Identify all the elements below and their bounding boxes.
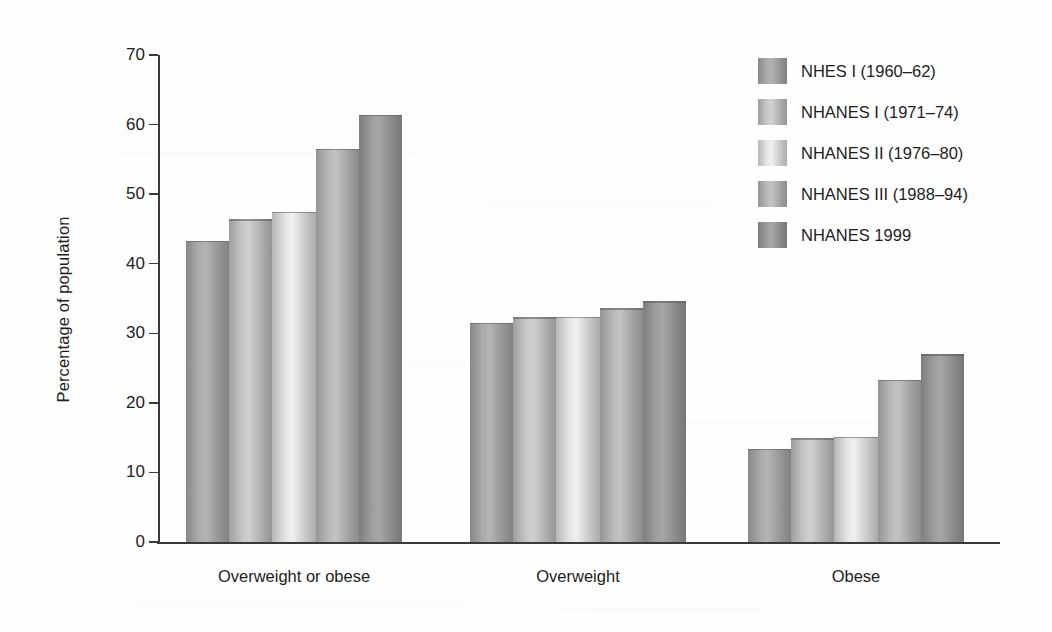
bar-cap <box>470 323 513 325</box>
y-axis-tick <box>149 124 158 125</box>
y-axis-tick <box>149 402 158 403</box>
legend-label: NHANES 1999 <box>801 227 911 244</box>
bar <box>643 301 686 542</box>
y-axis-tick-label: 30 <box>126 323 145 343</box>
bar-cap <box>748 449 791 451</box>
bar <box>921 354 964 542</box>
bar <box>229 219 272 542</box>
y-axis-tick <box>149 333 158 334</box>
y-axis-line <box>158 55 160 542</box>
bar-cap <box>834 437 877 439</box>
bar <box>556 317 599 542</box>
bar <box>186 241 229 542</box>
y-axis-title: Percentage of population <box>54 200 73 420</box>
y-axis-tick-label: 50 <box>126 184 145 204</box>
plot-area: 010203040506070 Overweight or obeseOverw… <box>158 55 1000 542</box>
y-axis-tick <box>149 54 158 55</box>
bar <box>791 438 834 542</box>
bar-cap <box>316 149 359 151</box>
bar <box>878 380 921 542</box>
legend-label: NHES I (1960–62) <box>801 63 936 80</box>
bar-cap <box>556 317 599 319</box>
category-label: Overweight or obese <box>218 567 370 586</box>
legend-label: NHANES III (1988–94) <box>801 186 968 203</box>
y-axis-tick <box>149 263 158 264</box>
legend-swatch <box>758 181 787 207</box>
y-axis-tick-label: 20 <box>126 393 145 413</box>
bar <box>272 212 315 542</box>
bar <box>316 149 359 542</box>
y-axis-tick-label: 0 <box>136 532 145 552</box>
bar <box>359 115 402 542</box>
bar-cap <box>229 219 272 221</box>
legend-item[interactable]: NHANES I (1971–74) <box>758 99 959 125</box>
legend-swatch <box>758 99 787 125</box>
category-label: Overweight <box>536 567 619 586</box>
bar <box>513 317 556 542</box>
bar-cap <box>921 354 964 356</box>
legend-item[interactable]: NHANES 1999 <box>758 222 911 248</box>
bar-cap <box>513 317 556 319</box>
bar-cap <box>878 380 921 382</box>
y-axis-tick <box>149 541 158 542</box>
bar-cap <box>791 438 834 440</box>
category-label: Obese <box>832 567 881 586</box>
bar <box>834 437 877 542</box>
y-axis-tick-label: 70 <box>126 45 145 65</box>
bar <box>600 308 643 542</box>
legend-swatch <box>758 222 787 248</box>
bar <box>470 323 513 542</box>
legend-item[interactable]: NHANES II (1976–80) <box>758 140 963 166</box>
y-axis-tick-label: 10 <box>126 462 145 482</box>
legend-swatch <box>758 58 787 84</box>
bar-cap <box>272 212 315 214</box>
legend-label: NHANES II (1976–80) <box>801 145 963 162</box>
x-axis-line <box>157 542 1000 544</box>
bar <box>748 449 791 542</box>
legend-swatch <box>758 140 787 166</box>
y-axis-tick <box>149 193 158 194</box>
y-axis-tick-label: 40 <box>126 254 145 274</box>
bar-cap <box>359 115 402 117</box>
bar-cap <box>600 308 643 310</box>
bar-chart-figure: Percentage of population 010203040506070… <box>0 0 1052 632</box>
legend-label: NHANES I (1971–74) <box>801 104 959 121</box>
legend-item[interactable]: NHANES III (1988–94) <box>758 181 968 207</box>
legend-item[interactable]: NHES I (1960–62) <box>758 58 936 84</box>
y-axis-tick <box>149 472 158 473</box>
bar-cap <box>186 241 229 243</box>
y-axis-tick-label: 60 <box>126 115 145 135</box>
bar-cap <box>643 301 686 303</box>
